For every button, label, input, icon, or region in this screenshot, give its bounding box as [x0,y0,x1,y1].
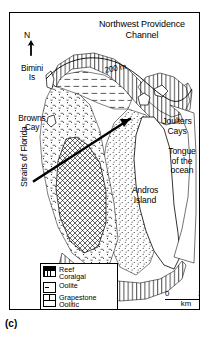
label-andros-island: Andros Island [116,186,174,205]
map-legend: Reef Coralgal Oolite Grapestone Oolitic … [40,263,118,310]
legend-item-reef-coralgal: Reef Coralgal [43,266,115,281]
grapestone-oolitic-swatch-icon [43,294,56,307]
label-tongue-of-the-ocean: Tongue of the ocean [158,147,200,176]
label-joulters-cays: Joulters Cays [149,117,200,136]
label-browns-cay: Browns Cay [11,114,53,133]
scale-bar-start: 0 [165,290,169,298]
north-arrow-group: N [24,31,38,57]
scale-bar-end: 20 [198,290,200,298]
panel-label: (c) [5,318,17,329]
figure-panel: N Northwest Providence Channel Bimini Is… [0,0,210,341]
label-straits-of-florida: Straits of Florida [20,115,29,199]
oolite-swatch-icon [43,282,56,293]
label-bimini-islands: Bimini Is [12,64,52,83]
scale-bar-unit: km [165,300,200,309]
scale-bar-numbers: 0 20 [165,290,200,298]
north-arrow-icon [26,40,36,56]
scale-bar: 0 20 km [165,290,200,309]
legend-label-reef-coralgal: Reef Coralgal [59,266,86,281]
legend-item-oolite: Oolite [43,282,115,293]
legend-label-oolite: Oolite [59,282,78,289]
reef-coralgal-swatch-icon [43,266,56,277]
map-frame: N Northwest Providence Channel Bimini Is… [9,12,200,310]
north-letter: N [24,31,30,40]
label-northwest-providence-channel: Northwest Providence Channel [88,19,196,40]
legend-label-grapestone-oolitic: Grapestone Oolitic [59,294,97,309]
legend-item-grapestone-oolitic: Grapestone Oolitic [43,294,115,309]
